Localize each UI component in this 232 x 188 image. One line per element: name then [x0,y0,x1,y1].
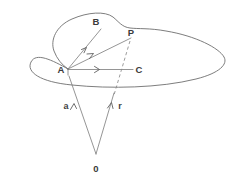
vector-a-to-p-arrowhead [87,54,94,59]
vector-a-to-p-line [68,38,131,69]
label-point-c: C [136,64,143,75]
label-point-a: A [58,64,65,75]
label-origin: 0 [93,163,98,174]
diagram-canvas: B P A C a r 0 [0,0,232,188]
label-point-b: B [93,16,100,27]
vector-a-to-b-line [68,29,101,69]
vector-origin-to-a-arrowhead [71,104,77,110]
vector-origin-to-a-line [69,76,96,154]
label-vector-r: r [118,101,122,111]
vector-diagram-figure: B P A C a r 0 [0,0,232,188]
surface-outline-path [30,13,225,87]
label-vector-a: a [63,101,69,111]
label-point-p: P [128,27,135,38]
